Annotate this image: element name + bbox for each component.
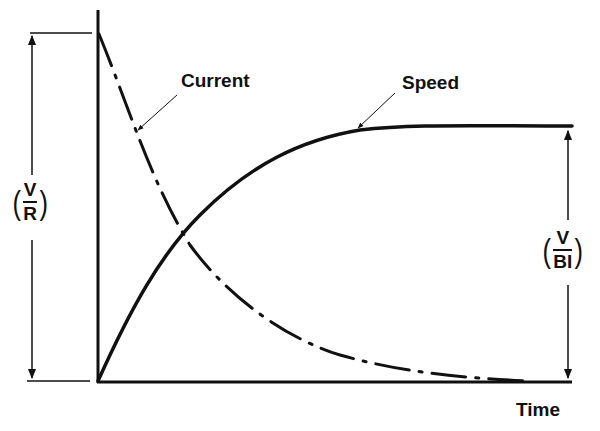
current-curve (99, 34, 530, 381)
open-paren: ( (542, 233, 550, 267)
left-dimension-label: ( V R ) (11, 180, 49, 224)
close-paren: ) (39, 185, 47, 219)
x-axis-label: Time (516, 399, 560, 421)
speed-label: Speed (402, 72, 459, 94)
speed-curve (98, 126, 572, 381)
current-label: Current (181, 70, 250, 92)
close-paren: ) (575, 233, 583, 267)
open-paren: ( (12, 185, 20, 219)
motor-response-diagram (0, 0, 600, 431)
left-numerator: V (24, 180, 37, 200)
right-dimension-label: ( V BI ) (541, 228, 585, 272)
left-denominator: R (23, 204, 37, 224)
right-denominator: BI (553, 252, 572, 272)
current-leader-arrow (138, 95, 177, 130)
speed-leader-arrow (358, 93, 395, 128)
right-numerator: V (556, 228, 569, 248)
